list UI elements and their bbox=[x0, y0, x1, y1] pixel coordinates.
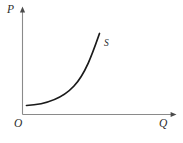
figure-canvas bbox=[0, 0, 183, 143]
y-axis-label: P bbox=[7, 4, 14, 16]
x-axis-arrow-icon bbox=[171, 112, 177, 117]
supply-curve-path bbox=[27, 34, 100, 106]
y-axis-arrow-icon bbox=[20, 7, 25, 13]
supply-curve-figure: P O Q S bbox=[0, 0, 183, 143]
supply-curve-label: S bbox=[104, 39, 109, 49]
origin-label: O bbox=[14, 118, 22, 130]
x-axis-label: Q bbox=[159, 118, 167, 130]
